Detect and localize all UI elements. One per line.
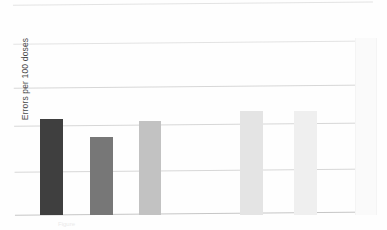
bar-5	[294, 111, 317, 215]
plot-area: Errors per 100 doses Figure	[0, 0, 387, 230]
bar-2	[90, 137, 113, 215]
bar-3	[139, 121, 161, 215]
bar-4	[240, 111, 263, 215]
bar-chart: Errors per 100 doses Figure	[0, 0, 387, 230]
bar-1	[40, 119, 63, 215]
y-axis-label: Errors per 100 doses	[20, 24, 30, 134]
caption-fragment: Figure	[58, 221, 75, 227]
bar-6-faded	[355, 38, 377, 215]
